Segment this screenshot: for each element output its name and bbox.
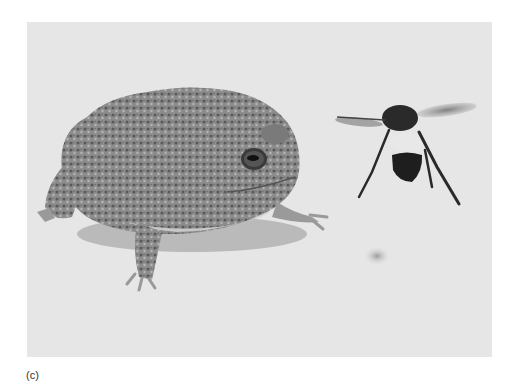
bee-shadow xyxy=(363,246,391,266)
photograph xyxy=(27,22,492,357)
toad-front-leg xyxy=(135,222,162,280)
toad-and-bee-image xyxy=(27,22,492,357)
bumblebee xyxy=(335,100,478,204)
toad-eye xyxy=(241,148,267,170)
figure-caption: (c) xyxy=(26,369,39,381)
